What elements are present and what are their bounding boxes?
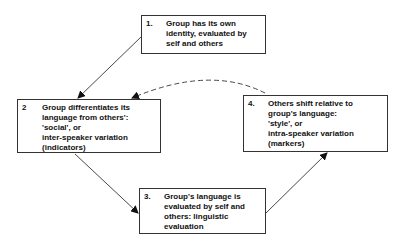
node-number: 2 [22, 103, 42, 113]
node-text-line: 'style', or [248, 119, 383, 129]
arrow-1-to-2 [78, 36, 142, 98]
arrow-2-to-3 [75, 154, 138, 213]
node-text-line: evaluation [144, 222, 261, 232]
node-text-line: Group's language is [164, 192, 261, 202]
node-1-group-identity: 1. Group has its own identity, evaluated… [141, 15, 266, 54]
node-text-line: language from others': [22, 113, 156, 123]
node-text-line: Group differentiates its [42, 103, 156, 113]
node-text-line: (indicators) [22, 143, 156, 153]
node-text-line: others: linguistic [144, 212, 261, 222]
node-text-line: evaluated by self and [144, 202, 261, 212]
node-text-line: 'social', or [22, 123, 156, 133]
node-number: 3. [144, 192, 164, 202]
node-number: 1. [146, 19, 166, 29]
node-2-group-differentiates: 2 Group differentiates its language from… [17, 99, 161, 153]
node-text-line: identity, evaluated by [146, 29, 261, 39]
arrow-3-to-4 [266, 153, 327, 213]
node-text-line: self and others [146, 39, 261, 49]
node-text-line: (markers) [248, 139, 383, 149]
node-text-line: Others shift relative to [268, 99, 383, 109]
node-text-line: inter-speaker variation [22, 133, 156, 143]
node-4-others-shift: 4. Others shift relative to group's lang… [243, 95, 388, 152]
node-text-line: intra-speaker variation [248, 129, 383, 139]
node-text-line: Group has its own [166, 19, 261, 29]
node-text-line: group's language: [248, 109, 383, 119]
node-number: 4. [248, 99, 268, 109]
node-3-linguistic-evaluation: 3. Group's language is evaluated by self… [139, 188, 266, 234]
